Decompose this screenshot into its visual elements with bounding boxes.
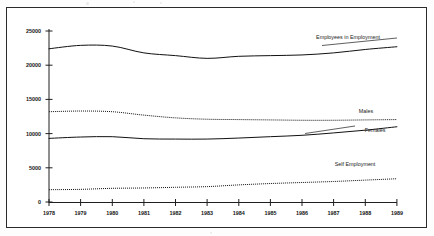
chart-figure: 25000 20000 15000 10000 5000 0 1978 1979 (0, 0, 434, 236)
scan-artifact (133, 1, 135, 3)
x-tick-label: 1981 (138, 210, 150, 216)
series-line-self-employment (49, 179, 397, 190)
y-tick-label: 20000 (26, 62, 41, 68)
scan-artifact (86, 2, 89, 5)
x-tick-label: 1985 (264, 210, 276, 216)
leader-line-females (305, 126, 355, 134)
y-tick-label: 25000 (26, 28, 41, 34)
series-annotation-males: Males (359, 108, 374, 114)
chart-plot-area: 25000 20000 15000 10000 5000 0 1978 1979 (0, 0, 434, 236)
series-line-males (49, 111, 397, 120)
y-tick-label: 10000 (26, 131, 41, 137)
x-tick-label: 1984 (233, 210, 245, 216)
y-tick-label: 15000 (26, 96, 41, 102)
series-annotation-females: Females (365, 127, 386, 133)
scan-artifact (160, 2, 162, 4)
series-line-employees-in-employment (49, 45, 397, 58)
x-tick-label: 1982 (170, 210, 182, 216)
scan-artifact (210, 232, 212, 234)
y-tick-label: 5000 (29, 165, 41, 171)
x-tick-label: 1986 (296, 210, 308, 216)
x-tick-label: 1989 (391, 210, 403, 216)
x-tick-label: 1988 (359, 210, 371, 216)
x-tick-label: 1978 (43, 210, 55, 216)
x-tick-label: 1987 (328, 210, 340, 216)
series-annotation-employees-in-employment: Employees in Employment (316, 34, 380, 40)
series-line-females (49, 127, 397, 139)
y-axis-tick-labels: 25000 20000 15000 10000 5000 0 (26, 28, 41, 205)
series-annotation-self-employment: Self Employment (335, 161, 376, 167)
x-tick-label: 1980 (106, 210, 118, 216)
x-axis-tick-labels: 1978 1979 1980 1981 1982 1983 1984 1985 … (43, 210, 403, 216)
y-tick-label: 0 (38, 199, 41, 205)
x-tick-label: 1979 (75, 210, 87, 216)
x-tick-label: 1983 (201, 210, 213, 216)
